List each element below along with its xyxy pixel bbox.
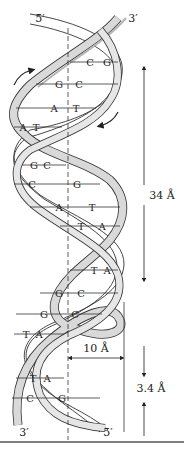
base-right-3: T — [73, 103, 80, 114]
base-left-7: A — [54, 202, 63, 213]
diameter-label: 10 Å — [83, 341, 109, 355]
strand-end-bottom-left: 3′ — [19, 426, 29, 439]
base-left-5: G — [30, 160, 38, 171]
base-left-2: G — [55, 79, 63, 90]
base-left-8: T — [78, 221, 85, 232]
base-left-14: C — [26, 393, 34, 404]
rise-label: 3.4 Å — [137, 381, 167, 395]
base-right-12: A — [34, 329, 43, 340]
base-right-10: C — [77, 288, 85, 299]
base-left-1: C — [86, 57, 94, 68]
base-left-12: T — [23, 329, 30, 340]
base-right-6: G — [73, 179, 81, 190]
base-right-14: G — [58, 393, 66, 404]
base-left-10: G — [55, 288, 63, 299]
strand-end-bottom-right: 5′ — [103, 426, 113, 439]
base-left-11: G — [40, 309, 48, 320]
base-left-9: T — [91, 265, 98, 276]
base-left-3: A — [49, 103, 58, 114]
front-strand — [14, 18, 126, 425]
base-right-4: T — [33, 122, 40, 133]
dna-helix-diagram: C G G C A T A T G C C G A T T A T A G C … — [0, 0, 184, 449]
base-left-4: A — [18, 122, 27, 133]
base-right-13: A — [42, 373, 51, 384]
base-right-7: T — [89, 202, 96, 213]
base-left-13: T — [30, 373, 37, 384]
base-right-11: C — [71, 309, 79, 320]
strand-end-top-right: 3′ — [128, 12, 138, 25]
base-right-1: G — [103, 57, 111, 68]
base-left-6: C — [28, 179, 36, 190]
base-right-9: A — [102, 265, 111, 276]
pitch-label: 34 Å — [149, 188, 175, 202]
base-right-2: C — [75, 79, 83, 90]
strand-end-top-left: 5′ — [35, 12, 45, 25]
base-right-5: C — [43, 160, 51, 171]
base-right-8: A — [97, 221, 106, 232]
